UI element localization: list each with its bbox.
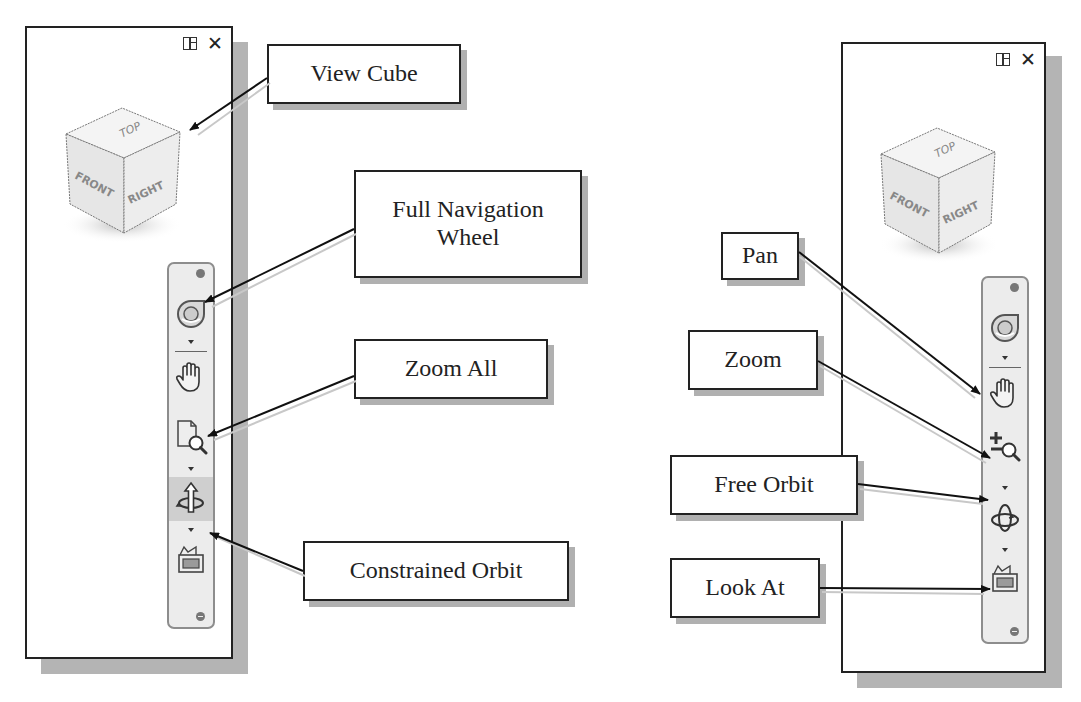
dock-icon[interactable] bbox=[996, 53, 1010, 66]
callout-full-navigation-wheel: Full Navigation Wheel bbox=[354, 170, 582, 278]
steering-wheel-icon bbox=[175, 298, 207, 330]
zoom-extents-icon bbox=[174, 419, 208, 455]
callout-label: View Cube bbox=[310, 60, 417, 88]
pan-button[interactable] bbox=[169, 357, 213, 397]
callout-zoom-all: Zoom All bbox=[354, 339, 548, 399]
constrained-orbit-icon bbox=[174, 481, 208, 517]
look-at-icon bbox=[174, 543, 208, 575]
callout-pan: Pan bbox=[721, 232, 799, 280]
viewcube[interactable]: TOP FRONT RIGHT bbox=[60, 100, 190, 245]
free-orbit-button[interactable] bbox=[983, 498, 1027, 538]
navbar-options-icon[interactable] bbox=[196, 612, 205, 621]
navbar-separator bbox=[175, 351, 207, 352]
panel-controls: ✕ bbox=[996, 52, 1036, 66]
callout-label-line1: Full Navigation bbox=[392, 196, 543, 224]
callout-free-orbit: Free Orbit bbox=[670, 455, 858, 515]
hand-icon bbox=[988, 376, 1022, 410]
free-orbit-icon bbox=[988, 500, 1022, 536]
zoom-button[interactable] bbox=[983, 426, 1027, 468]
callout-constrained-orbit: Constrained Orbit bbox=[303, 541, 569, 601]
full-navigation-wheel-button[interactable] bbox=[983, 310, 1027, 346]
dock-icon[interactable] bbox=[183, 37, 197, 50]
callout-label: Constrained Orbit bbox=[350, 557, 523, 585]
orbit-dropdown-arrow[interactable] bbox=[188, 528, 194, 532]
wheel-dropdown-arrow[interactable] bbox=[1002, 356, 1008, 360]
navbar-close-icon[interactable] bbox=[196, 269, 205, 278]
callout-look-at: Look At bbox=[670, 558, 820, 618]
pan-button[interactable] bbox=[983, 373, 1027, 413]
navbar-separator bbox=[989, 367, 1021, 368]
full-navigation-wheel-button[interactable] bbox=[169, 296, 213, 332]
look-at-icon bbox=[988, 562, 1022, 594]
callout-label: Pan bbox=[742, 242, 778, 270]
callout-label: Zoom All bbox=[405, 355, 498, 383]
zoom-dropdown-arrow[interactable] bbox=[188, 467, 194, 471]
navbar-close-icon[interactable] bbox=[1010, 283, 1019, 292]
callout-label-line2: Wheel bbox=[437, 224, 500, 252]
hand-icon bbox=[174, 360, 208, 394]
steering-wheel-icon bbox=[989, 312, 1021, 344]
callout-view-cube: View Cube bbox=[267, 44, 461, 104]
look-at-button[interactable] bbox=[169, 539, 213, 579]
callout-label: Zoom bbox=[724, 346, 781, 374]
zoom-all-button[interactable] bbox=[169, 416, 213, 458]
viewcube[interactable]: TOP FRONT RIGHT bbox=[877, 120, 1007, 265]
navigation-bar bbox=[167, 262, 215, 629]
orbit-dropdown-arrow[interactable] bbox=[1002, 548, 1008, 552]
callout-zoom: Zoom bbox=[688, 330, 818, 390]
callout-label: Free Orbit bbox=[714, 471, 813, 499]
constrained-orbit-button[interactable] bbox=[169, 477, 213, 521]
panel-controls: ✕ bbox=[183, 36, 223, 50]
callout-label: Look At bbox=[705, 574, 784, 602]
navbar-options-icon[interactable] bbox=[1010, 627, 1019, 636]
look-at-button[interactable] bbox=[983, 558, 1027, 598]
zoom-realtime-icon bbox=[988, 429, 1022, 465]
zoom-dropdown-arrow[interactable] bbox=[1002, 486, 1008, 490]
wheel-dropdown-arrow[interactable] bbox=[188, 340, 194, 344]
close-icon[interactable]: ✕ bbox=[207, 36, 223, 50]
navigation-bar bbox=[981, 276, 1029, 644]
close-icon[interactable]: ✕ bbox=[1020, 52, 1036, 66]
